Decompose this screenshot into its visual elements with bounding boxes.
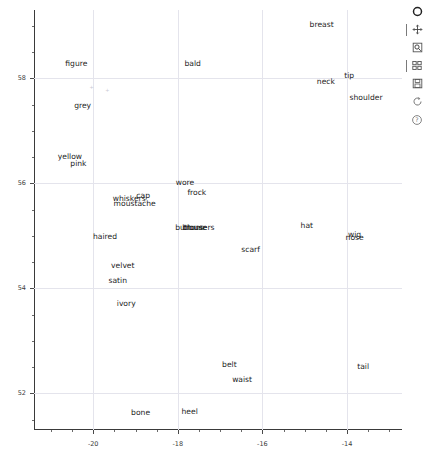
- data-point-label[interactable]: trousers: [183, 224, 214, 232]
- y-tick: [30, 78, 34, 79]
- x-tick: [347, 430, 348, 434]
- y-tick: [30, 183, 34, 184]
- x-minor-tick: [284, 430, 285, 432]
- data-point-label[interactable]: moustache: [114, 200, 156, 208]
- data-point-label[interactable]: grey: [74, 102, 91, 110]
- y-gridline: [34, 393, 402, 394]
- data-point-marker: +: [90, 86, 93, 89]
- data-point-label[interactable]: waist: [232, 376, 252, 384]
- y-minor-tick: [32, 210, 34, 211]
- help-icon[interactable]: ?: [408, 112, 426, 127]
- data-point-label[interactable]: belt: [222, 362, 237, 370]
- data-point-label[interactable]: haired: [93, 233, 117, 241]
- help-tool-wrap: ?: [406, 112, 428, 127]
- data-point-label[interactable]: wore: [176, 179, 194, 187]
- move-icon[interactable]: [408, 22, 426, 37]
- save-tool-wrap: [406, 76, 428, 91]
- toolbar-divider: [406, 24, 407, 36]
- y-tick-label: 58: [18, 74, 26, 82]
- x-minor-tick: [389, 430, 390, 432]
- y-gridline: [34, 183, 402, 184]
- data-point-label[interactable]: tip: [344, 72, 354, 80]
- y-minor-tick: [32, 26, 34, 27]
- data-point-label[interactable]: velvet: [111, 262, 134, 270]
- y-minor-tick: [32, 105, 34, 106]
- x-minor-tick: [368, 430, 369, 432]
- x-minor-tick: [241, 430, 242, 432]
- data-point-label[interactable]: scarf: [241, 247, 260, 255]
- refresh-tool-wrap: [406, 94, 428, 109]
- data-point-label[interactable]: breast: [310, 21, 334, 29]
- x-minor-tick: [305, 430, 306, 432]
- scatter-plot-window: -20-18-16-1452545658++breastfigurebaldti…: [0, 0, 430, 449]
- y-axis-spine: [34, 10, 35, 430]
- data-point-label[interactable]: pink: [70, 160, 86, 168]
- x-minor-tick: [157, 430, 158, 432]
- figure-toolbar[interactable]: ?: [406, 4, 428, 127]
- refresh-icon[interactable]: [408, 94, 426, 109]
- toolbar-divider-2: [406, 60, 407, 72]
- y-minor-tick: [32, 367, 34, 368]
- x-minor-tick: [51, 430, 52, 432]
- configure-subplots-icon[interactable]: [408, 58, 426, 73]
- x-gridline: [93, 10, 94, 430]
- x-tick-label: -14: [342, 440, 353, 448]
- x-minor-tick: [136, 430, 137, 432]
- y-minor-tick: [32, 262, 34, 263]
- y-minor-tick: [32, 315, 34, 316]
- home-tool-wrap: [406, 4, 428, 19]
- y-minor-tick: [32, 420, 34, 421]
- x-minor-tick: [72, 430, 73, 432]
- x-minor-tick: [199, 430, 200, 432]
- svg-text:?: ?: [415, 116, 418, 123]
- plot-axes[interactable]: -20-18-16-1452545658++breastfigurebaldti…: [34, 10, 402, 430]
- x-minor-tick: [326, 430, 327, 432]
- data-point-label[interactable]: heel: [182, 408, 198, 416]
- data-point-label[interactable]: tail: [357, 363, 369, 371]
- y-tick-label: 54: [18, 284, 26, 292]
- data-point-label[interactable]: ivory: [117, 300, 136, 308]
- y-tick: [30, 288, 34, 289]
- data-point-label[interactable]: nose: [346, 235, 364, 243]
- x-tick: [93, 430, 94, 434]
- zoom-rect-icon[interactable]: [408, 40, 426, 55]
- y-minor-tick: [32, 131, 34, 132]
- y-tick-label: 56: [18, 179, 26, 187]
- move-tool-wrap: [406, 22, 428, 37]
- data-point-label[interactable]: satin: [108, 278, 127, 286]
- home-icon[interactable]: [408, 4, 426, 19]
- subplots-tool-wrap: [406, 58, 428, 73]
- x-tick: [178, 430, 179, 434]
- zoom-tool-wrap: [406, 40, 428, 55]
- data-point-label[interactable]: bald: [184, 60, 200, 68]
- save-icon[interactable]: [408, 76, 426, 91]
- x-minor-tick: [220, 430, 221, 432]
- data-point-marker: +: [105, 89, 108, 92]
- x-gridline: [262, 10, 263, 430]
- y-tick: [30, 393, 34, 394]
- data-point-label[interactable]: hat: [301, 223, 313, 231]
- y-minor-tick: [32, 157, 34, 158]
- data-point-label[interactable]: frock: [187, 189, 206, 197]
- x-minor-tick: [114, 430, 115, 432]
- y-minor-tick: [32, 52, 34, 53]
- x-tick: [262, 430, 263, 434]
- data-point-label[interactable]: figure: [65, 60, 87, 68]
- data-point-label[interactable]: bone: [131, 409, 150, 417]
- x-gridline: [178, 10, 179, 430]
- y-gridline: [34, 288, 402, 289]
- x-tick-label: -18: [173, 440, 184, 448]
- y-minor-tick: [32, 341, 34, 342]
- x-tick-label: -20: [88, 440, 99, 448]
- chart-canvas[interactable]: -20-18-16-1452545658++breastfigurebaldti…: [0, 0, 430, 449]
- y-tick-label: 52: [18, 389, 26, 397]
- data-point-label[interactable]: shoulder: [350, 94, 383, 102]
- data-point-label[interactable]: neck: [317, 79, 335, 87]
- y-minor-tick: [32, 236, 34, 237]
- x-tick-label: -16: [257, 440, 268, 448]
